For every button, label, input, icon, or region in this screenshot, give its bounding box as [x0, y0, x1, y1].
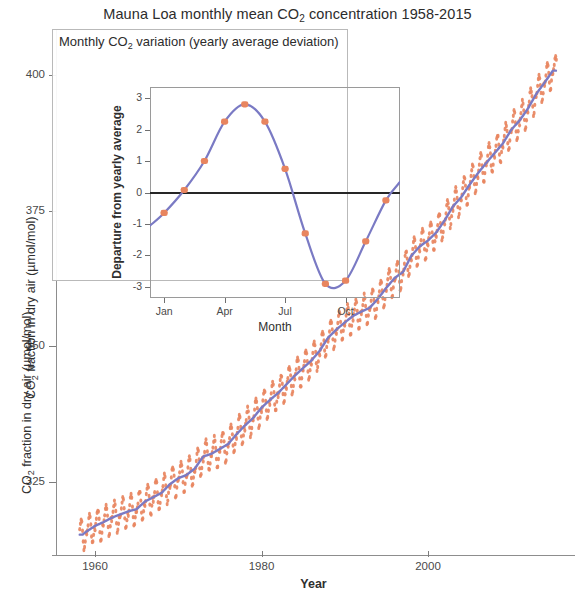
- main-scatter-point: [317, 359, 320, 363]
- main-scatter-point: [203, 450, 206, 454]
- main-scatter-point: [100, 538, 103, 542]
- main-scatter-point: [483, 179, 486, 183]
- main-x-tick: [428, 551, 429, 557]
- main-scatter-point: [449, 226, 452, 230]
- main-scatter-point: [497, 134, 500, 138]
- main-y-tick: [49, 346, 56, 347]
- main-scatter-point: [246, 405, 249, 409]
- main-scatter-point: [288, 368, 291, 372]
- inset-x-tick: [285, 298, 286, 303]
- main-scatter-point: [383, 303, 386, 307]
- main-scatter-point: [131, 504, 134, 508]
- main-scatter-point: [97, 509, 100, 513]
- main-scatter-point: [255, 400, 258, 404]
- figure-root: Mauna Loa monthly mean CO2 concentration…: [0, 0, 575, 599]
- main-scatter-point: [98, 517, 101, 521]
- inset-y-axis-title: Departure from yearly average: [110, 67, 124, 317]
- main-scatter-point: [213, 434, 216, 438]
- main-scatter-point: [311, 351, 314, 355]
- main-scatter-point: [112, 509, 115, 513]
- main-scatter-point: [183, 489, 186, 493]
- main-scatter-point: [433, 239, 436, 243]
- main-scatter-point: [517, 129, 520, 133]
- main-scatter-point: [542, 91, 545, 95]
- main-scatter-point: [488, 145, 491, 149]
- main-scatter-point: [430, 223, 433, 227]
- inset-y-tick: [145, 287, 150, 288]
- main-scatter-point: [483, 171, 486, 175]
- main-scatter-point: [103, 513, 106, 517]
- main-scatter-point: [488, 141, 491, 145]
- main-scatter-point: [181, 469, 184, 473]
- main-scatter-point: [134, 515, 137, 519]
- main-scatter-point: [108, 532, 111, 536]
- main-scatter-point: [139, 490, 142, 494]
- outer-ylabel-subscript: 2: [26, 470, 36, 475]
- inset-data-point: [362, 238, 369, 244]
- main-scatter-point: [150, 512, 153, 516]
- main-scatter-point: [508, 146, 511, 150]
- main-scatter-point: [200, 472, 203, 476]
- main-scatter-point: [165, 494, 168, 498]
- main-scatter-point: [538, 76, 541, 80]
- main-scatter-point: [420, 238, 423, 242]
- main-scatter-point: [499, 160, 502, 164]
- inset-chart-canvas: [150, 87, 400, 298]
- main-scatter-point: [323, 348, 326, 352]
- main-scatter-point: [120, 506, 123, 510]
- main-scatter-point: [283, 399, 286, 403]
- main-scatter-point: [117, 522, 120, 526]
- main-scatter-point: [462, 180, 465, 184]
- main-scatter-point: [84, 539, 87, 543]
- main-scatter-point: [250, 426, 253, 430]
- main-x-axis-title: Year: [52, 577, 575, 591]
- main-scatter-point: [243, 428, 246, 432]
- main-y-axis-title-outer: CO2 fraction in dry air (µmol/mol): [20, 283, 36, 523]
- inset-y-tick: [145, 130, 150, 131]
- main-scatter-point: [303, 359, 306, 363]
- main-scatter-point: [470, 174, 473, 178]
- main-scatter-point: [250, 432, 253, 436]
- main-scatter-point: [355, 300, 358, 304]
- main-scatter-point: [175, 485, 178, 489]
- outer-ylabel-prefix: CO: [20, 475, 34, 494]
- inset-data-point: [302, 230, 309, 236]
- main-scatter-point: [408, 272, 411, 276]
- main-scatter-point: [316, 369, 319, 373]
- main-x-tick-label: 2000: [398, 560, 458, 572]
- main-scatter-point: [259, 415, 262, 419]
- main-scatter-point: [161, 484, 164, 488]
- main-scatter-point: [413, 238, 416, 242]
- main-scatter-point: [152, 499, 155, 503]
- main-scatter-point: [536, 84, 539, 88]
- main-scatter-point: [547, 63, 550, 67]
- main-scatter-point: [205, 437, 208, 441]
- main-scatter-point: [158, 506, 161, 510]
- main-x-tick-label: 1960: [65, 560, 125, 572]
- main-scatter-point: [518, 123, 521, 127]
- main-scatter-point: [173, 473, 176, 477]
- main-scatter-point: [266, 415, 269, 419]
- main-scatter-point: [94, 528, 97, 532]
- main-scatter-point: [125, 525, 128, 529]
- main-scatter-point: [81, 529, 84, 533]
- main-scatter-point: [300, 384, 303, 388]
- main-scatter-point: [200, 466, 203, 470]
- main-scatter-point: [453, 197, 456, 201]
- main-scatter-point: [333, 344, 336, 348]
- outer-ylabel-suffix: fraction in dry air (µmol/mol): [20, 312, 34, 471]
- main-scatter-point: [247, 409, 250, 413]
- main-scatter-point: [175, 494, 178, 498]
- main-scatter-point: [109, 524, 112, 528]
- main-scatter-point: [186, 465, 189, 469]
- main-scatter-point: [525, 118, 528, 122]
- main-scatter-point: [89, 522, 92, 526]
- inset-data-point: [342, 278, 349, 284]
- main-scatter-point: [159, 501, 162, 505]
- inset-data-point: [241, 101, 248, 107]
- main-scatter-point: [441, 235, 444, 239]
- main-scatter-point: [230, 426, 233, 430]
- main-scatter-point: [192, 475, 195, 479]
- main-scatter-point: [113, 498, 116, 502]
- main-scatter-point: [550, 78, 553, 82]
